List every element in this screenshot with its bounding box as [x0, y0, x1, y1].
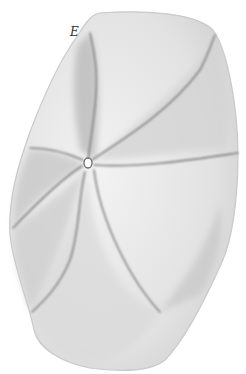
illustration: E [0, 0, 246, 374]
figure-label: E [70, 25, 79, 39]
specimen-drawing [0, 0, 246, 374]
central-pore [84, 158, 92, 168]
